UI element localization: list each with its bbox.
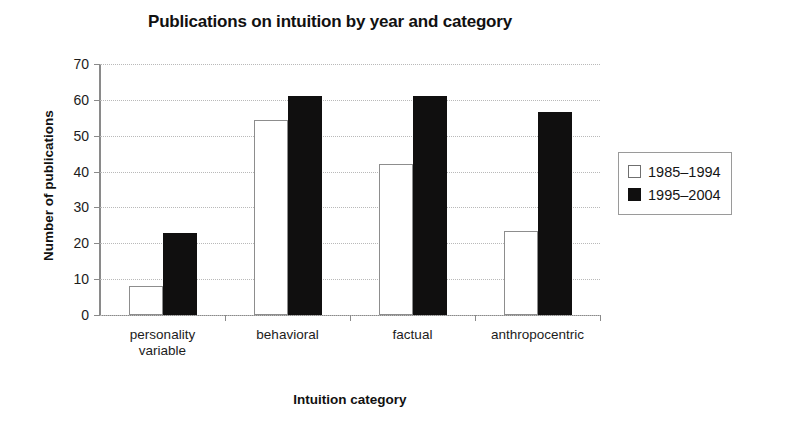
x-tick-mark [600,315,601,321]
legend-item[interactable]: 1985–1994 [628,160,721,183]
bar-group: factual [350,64,475,315]
legend: 1985–1994 1995–2004 [618,152,732,215]
bar-group: behavioral [225,64,350,315]
y-axis-title: Number of publications [41,76,56,296]
bar[interactable] [288,96,322,315]
bar[interactable] [163,233,197,315]
legend-swatch-dark [628,188,641,201]
y-tick-mark [94,315,100,316]
bar-group: anthropocentric [475,64,600,315]
y-tick-label: 40 [73,164,89,180]
legend-swatch-light [628,165,641,178]
y-tick-label: 50 [73,128,89,144]
bar[interactable] [504,231,538,315]
y-tick-label: 10 [73,271,89,287]
bar-group: personality variable [100,64,225,315]
plot-area: 010203040506070 personality variablebeha… [100,64,600,315]
bar[interactable] [379,164,413,315]
x-tick-label: anthropocentric [491,327,584,343]
y-tick-label: 0 [81,307,89,323]
legend-label: 1985–1994 [648,164,721,180]
bar[interactable] [129,286,163,315]
legend-label: 1995–2004 [648,187,721,203]
bar[interactable] [413,96,447,315]
x-tick-label: behavioral [256,327,318,343]
x-tick-mark [225,315,226,321]
x-axis-title: Intuition category [100,392,600,407]
legend-item[interactable]: 1995–2004 [628,183,721,206]
x-tick-label: factual [393,327,433,343]
x-tick-mark [475,315,476,321]
y-tick-label: 70 [73,56,89,72]
bar[interactable] [538,112,572,315]
x-tick-mark [350,315,351,321]
x-tick-label: personality variable [130,327,195,359]
y-tick-label: 30 [73,199,89,215]
bar-chart-figure: Publications on intuition by year and ca… [0,0,787,432]
bar[interactable] [254,120,288,315]
y-tick-label: 20 [73,235,89,251]
chart-title: Publications on intuition by year and ca… [60,12,600,32]
y-tick-label: 60 [73,92,89,108]
